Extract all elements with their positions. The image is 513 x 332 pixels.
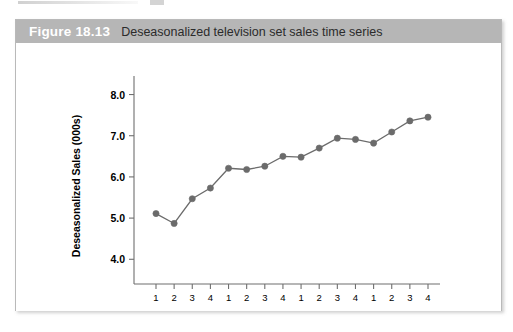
x-tick-label: 2 [171,292,176,303]
x-tick-label: 4 [280,292,285,303]
x-axis-group-label: Year 1 [169,307,198,309]
y-tick-label: 8.0 [110,89,125,101]
x-tick-label: 3 [335,292,340,303]
x-tick-label: 3 [262,292,267,303]
y-tick-label: 7.0 [110,130,125,142]
y-axis-title: Deseasonalized Sales (000s) [70,115,82,257]
data-point-marker [189,196,195,202]
data-point-marker [262,163,268,169]
data-point-marker [298,154,304,160]
data-point-marker [244,166,250,172]
series-line [156,117,428,223]
data-point-marker [371,140,377,146]
x-tick-label: 1 [153,292,158,303]
data-point-marker [316,145,322,151]
x-tick-label: 2 [244,292,249,303]
figure-box: Figure 18.13 Deseasonalized television s… [15,19,502,311]
x-tick-label: 1 [298,292,303,303]
x-tick-label: 4 [353,292,358,303]
x-tick-label: 2 [389,292,394,303]
x-tick-label: 3 [407,292,412,303]
x-axis-group-label: Year 2 [242,307,270,309]
x-tick-label: 4 [208,292,213,303]
data-point-marker [352,136,358,142]
figure-root: Figure 18.13 Deseasonalized television s… [0,0,513,332]
data-point-marker [280,153,286,159]
x-tick-label: 1 [226,292,231,303]
data-point-marker [225,165,231,171]
data-point-marker [407,118,413,124]
data-point-marker [207,185,213,191]
x-axis-group-label: Year 4 [387,307,416,309]
x-tick-label: 4 [425,292,430,303]
data-point-marker [334,135,340,141]
data-point-marker [389,129,395,135]
x-axis-group-label: Year 3 [314,307,342,309]
y-tick-label: 6.0 [110,171,125,183]
plot-area: 4.05.06.07.08.0Deseasonalized Sales (000… [16,43,501,311]
data-point-marker [171,220,177,226]
figure-header: Figure 18.13 Deseasonalized television s… [16,20,501,43]
figure-caption: Deseasonalized television set sales time… [121,25,382,39]
time-series-chart: 4.05.06.07.08.0Deseasonalized Sales (000… [16,43,501,309]
x-tick-label: 1 [371,292,376,303]
data-point-marker [425,114,431,120]
scan-artifact-secondary [150,0,164,5]
x-tick-label: 2 [317,292,322,303]
y-tick-label: 4.0 [110,253,125,265]
x-tick-label: 3 [190,292,195,303]
y-tick-label: 5.0 [110,212,125,224]
scan-artifact [18,1,138,4]
data-point-marker [153,210,159,216]
figure-number: Figure 18.13 [29,24,110,39]
